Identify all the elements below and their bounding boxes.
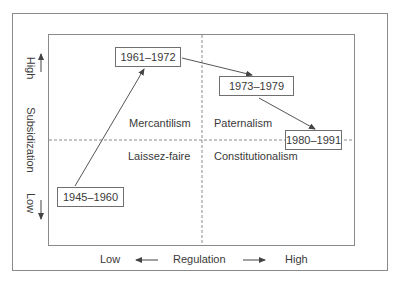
period-box-1961-1972: 1961–1972 xyxy=(115,47,181,67)
x-axis-low-label: Low xyxy=(100,253,120,265)
quadrant-label-mercantilism: Mercantilism xyxy=(129,117,191,129)
period-box-1973-1979: 1973–1979 xyxy=(219,76,294,96)
quadrant-label-constitutionalism: Constitutionalism xyxy=(214,150,298,162)
y-axis-title: Subsidization xyxy=(25,107,37,172)
period-box-1980-1991: 1980–1991 xyxy=(285,130,342,150)
y-axis-low-label: Low xyxy=(25,193,37,213)
arrow-1961-to-1973 xyxy=(182,58,252,75)
x-axis-high-label: High xyxy=(285,253,308,265)
quadrant-label-paternalism: Paternalism xyxy=(214,117,272,129)
quadrant-label-laissez-faire: Laissez-faire xyxy=(128,150,190,162)
period-box-1945-1960: 1945–1960 xyxy=(57,187,124,207)
y-axis-high-label: High xyxy=(25,57,37,80)
x-axis-title: Regulation xyxy=(173,253,226,265)
